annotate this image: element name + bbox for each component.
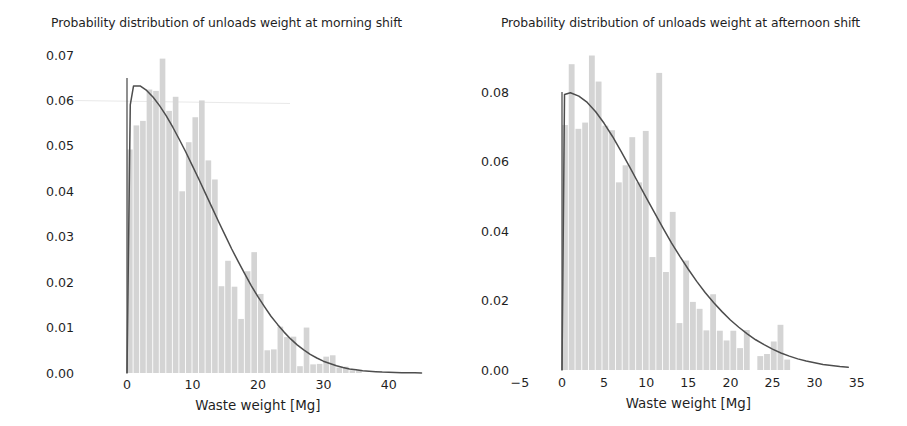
histogram-bar bbox=[219, 286, 225, 373]
x-tick-label: 40 bbox=[381, 377, 397, 392]
histogram-bar bbox=[690, 302, 696, 370]
histogram-bar bbox=[677, 323, 683, 370]
histogram-bar bbox=[703, 330, 709, 370]
x-tick-label: 10 bbox=[184, 377, 200, 392]
histogram-bar bbox=[147, 90, 153, 373]
x-tick-label: 30 bbox=[807, 375, 823, 390]
histogram-bar bbox=[623, 165, 629, 370]
x-tick-label: 25 bbox=[764, 375, 780, 390]
y-tick-label: 0.06 bbox=[46, 93, 74, 108]
histogram-bar bbox=[153, 91, 159, 373]
x-tick-label: 30 bbox=[315, 377, 331, 392]
y-tick-label: 0.00 bbox=[46, 366, 74, 381]
y-tick-label: 0.02 bbox=[46, 275, 74, 290]
histogram-bar bbox=[771, 342, 777, 371]
histogram-bar bbox=[683, 261, 689, 370]
histogram-bar bbox=[643, 131, 649, 370]
histogram-bar bbox=[569, 64, 575, 370]
histogram-bar bbox=[778, 325, 784, 370]
x-tick-label: 5 bbox=[600, 375, 608, 390]
histogram-bar bbox=[323, 357, 329, 373]
x-tick-label: 15 bbox=[680, 375, 696, 390]
histogram-bar bbox=[258, 294, 264, 373]
histogram-bar bbox=[232, 287, 238, 373]
histogram-bar bbox=[166, 111, 172, 373]
plot-area-morning: 0102030400.000.010.020.030.040.050.060.0… bbox=[0, 0, 453, 426]
chart-panel-morning: Probability distribution of unloads weig… bbox=[0, 0, 453, 426]
histogram-bars bbox=[562, 56, 790, 370]
y-tick-label: 0.05 bbox=[46, 138, 74, 153]
plot-area-afternoon: −5051015202530350.000.020.040.060.08Wast… bbox=[454, 0, 907, 426]
histogram-bar bbox=[336, 368, 342, 373]
histogram-bars bbox=[127, 59, 362, 373]
histogram-bar bbox=[245, 271, 251, 373]
histogram-bar bbox=[663, 272, 669, 370]
y-tick-label: 0.06 bbox=[481, 154, 509, 169]
histogram-bar bbox=[730, 331, 736, 370]
histogram-bar bbox=[134, 125, 140, 373]
histogram-bar bbox=[596, 82, 602, 370]
histogram-bar bbox=[710, 294, 716, 370]
y-tick-label: 0.04 bbox=[46, 184, 74, 199]
histogram-bar bbox=[724, 340, 730, 370]
x-axis-label: Waste weight [Mg] bbox=[626, 396, 751, 411]
y-tick-label: 0.02 bbox=[481, 293, 509, 308]
histogram-bar bbox=[297, 366, 303, 373]
histogram-bar bbox=[271, 349, 277, 373]
histogram-bar bbox=[225, 261, 231, 373]
histogram-bar bbox=[284, 337, 290, 373]
y-tick-label: 0.03 bbox=[46, 229, 74, 244]
histogram-bar bbox=[179, 191, 185, 373]
histogram-bar bbox=[717, 331, 723, 370]
y-tick-label: 0.00 bbox=[481, 363, 509, 378]
histogram-bar bbox=[238, 319, 244, 373]
histogram-bar bbox=[670, 212, 676, 370]
stray-guide-line bbox=[75, 101, 290, 104]
histogram-bar bbox=[186, 142, 192, 373]
x-axis-label: Waste weight [Mg] bbox=[195, 398, 320, 413]
histogram-bar bbox=[697, 309, 703, 370]
y-tick-label: 0.04 bbox=[481, 224, 509, 239]
x-tick-label: 0 bbox=[123, 377, 131, 392]
x-tick-label: 20 bbox=[250, 377, 266, 392]
chart-panel-afternoon: Probability distribution of unloads weig… bbox=[454, 0, 907, 426]
x-tick-label: 35 bbox=[849, 375, 865, 390]
histogram-bar bbox=[278, 327, 284, 373]
histogram-bar bbox=[650, 257, 656, 370]
histogram-bar bbox=[744, 330, 750, 370]
histogram-bar bbox=[173, 97, 179, 373]
histogram-bar bbox=[575, 129, 581, 370]
histogram-bar bbox=[616, 182, 622, 370]
histogram-bar bbox=[757, 356, 763, 370]
histogram-bar bbox=[636, 182, 642, 370]
histogram-bar bbox=[264, 350, 270, 373]
y-tick-label: 0.07 bbox=[46, 48, 74, 63]
histogram-bar bbox=[602, 126, 608, 370]
histogram-bar bbox=[350, 370, 356, 373]
histogram-bar bbox=[589, 56, 595, 370]
histogram-bar bbox=[609, 130, 615, 370]
histogram-bar bbox=[160, 59, 166, 373]
histogram-bar bbox=[784, 360, 790, 370]
histogram-bar bbox=[317, 364, 323, 373]
histogram-bar bbox=[737, 348, 743, 370]
histogram-bar bbox=[764, 354, 770, 370]
histogram-bar bbox=[140, 121, 146, 373]
figure-container: Probability distribution of unloads weig… bbox=[0, 0, 907, 426]
histogram-bar bbox=[199, 100, 205, 373]
x-tick-label: −5 bbox=[511, 375, 530, 390]
histogram-bar bbox=[582, 123, 588, 370]
x-tick-label: 20 bbox=[722, 375, 738, 390]
histogram-bar bbox=[206, 160, 212, 373]
histogram-bar bbox=[192, 117, 198, 373]
histogram-bar bbox=[251, 252, 257, 373]
histogram-bar bbox=[310, 364, 316, 373]
x-tick-label: 0 bbox=[558, 375, 566, 390]
y-tick-label: 0.08 bbox=[481, 85, 509, 100]
y-tick-label: 0.01 bbox=[46, 320, 74, 335]
x-tick-label: 10 bbox=[638, 375, 654, 390]
